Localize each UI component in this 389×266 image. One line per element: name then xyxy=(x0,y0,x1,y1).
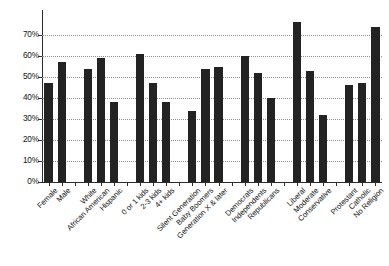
plot-area xyxy=(42,14,382,182)
y-axis-tick-label: 50% xyxy=(3,73,39,81)
bar-chart: 0%10%20%30%40%50%60%70% FemaleMaleWhiteA… xyxy=(0,0,389,266)
y-axis-tick-label: 30% xyxy=(3,115,39,123)
bar xyxy=(162,102,170,182)
gridline xyxy=(42,98,382,99)
bar xyxy=(358,83,366,182)
gridline xyxy=(42,161,382,162)
gridline xyxy=(42,77,382,78)
bar xyxy=(58,62,66,182)
bar xyxy=(97,58,105,182)
y-axis-tick-label: 60% xyxy=(3,52,39,60)
bar xyxy=(84,69,92,182)
gridline xyxy=(42,119,382,120)
bar xyxy=(44,83,52,182)
bar xyxy=(136,54,144,182)
y-axis-tick-label: 40% xyxy=(3,94,39,102)
gridline xyxy=(42,140,382,141)
bar xyxy=(267,98,275,182)
bar xyxy=(110,102,118,182)
bar xyxy=(371,27,379,182)
bar xyxy=(254,73,262,182)
gridline xyxy=(42,56,382,57)
gridline xyxy=(42,182,382,183)
bar xyxy=(188,111,196,182)
bar xyxy=(319,115,327,182)
y-axis-tick-label: 10% xyxy=(3,157,39,165)
bar xyxy=(293,22,301,182)
bar xyxy=(345,85,353,182)
bar xyxy=(306,71,314,182)
gridline xyxy=(42,35,382,36)
bar xyxy=(201,69,209,182)
y-axis-tick-labels: 0%10%20%30%40%50%60%70% xyxy=(0,14,39,182)
bar xyxy=(214,67,222,183)
x-axis-labels: FemaleMaleWhiteAfrican AmericanHispanic0… xyxy=(42,186,389,266)
bar xyxy=(149,83,157,182)
bar xyxy=(241,56,249,182)
y-axis-tick-label: 20% xyxy=(3,136,39,144)
y-axis-tick-label: 0% xyxy=(3,178,39,186)
y-axis-tick-label: 70% xyxy=(3,31,39,39)
x-axis-label: Male xyxy=(54,186,72,204)
